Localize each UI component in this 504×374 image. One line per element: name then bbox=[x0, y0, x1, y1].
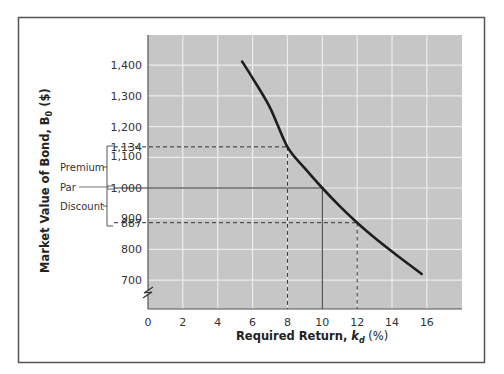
premium-label: Premium bbox=[60, 162, 105, 173]
y-tick-label: 1,000 bbox=[111, 182, 143, 195]
y-tick-label: 1,400 bbox=[111, 59, 143, 72]
x-tick-label: 16 bbox=[420, 316, 434, 329]
x-tick-label: 6 bbox=[249, 316, 256, 329]
par-label: Par bbox=[60, 182, 77, 193]
x-tick-label: 10 bbox=[315, 316, 329, 329]
y-ref-label: 1,134 bbox=[111, 141, 143, 154]
y-tick-label: 800 bbox=[121, 243, 142, 256]
y-tick-label: 1,300 bbox=[111, 90, 143, 103]
y-tick-label: 1,200 bbox=[111, 121, 143, 134]
y-tick-label: 700 bbox=[121, 274, 142, 287]
x-tick-label: 12 bbox=[350, 316, 364, 329]
bond-value-chart: 0246810121416 7008009001,0001,1001,2001,… bbox=[0, 0, 504, 374]
x-tick-label: 0 bbox=[145, 316, 152, 329]
x-axis-title: Required Return, kd (%) bbox=[236, 329, 388, 345]
y-ref-label: 887 bbox=[121, 217, 142, 230]
x-tick-label: 2 bbox=[179, 316, 186, 329]
x-tick-label: 4 bbox=[214, 316, 221, 329]
x-tick-label: 8 bbox=[284, 316, 291, 329]
discount-label: Discount bbox=[60, 201, 104, 212]
x-tick-label: 14 bbox=[385, 316, 399, 329]
